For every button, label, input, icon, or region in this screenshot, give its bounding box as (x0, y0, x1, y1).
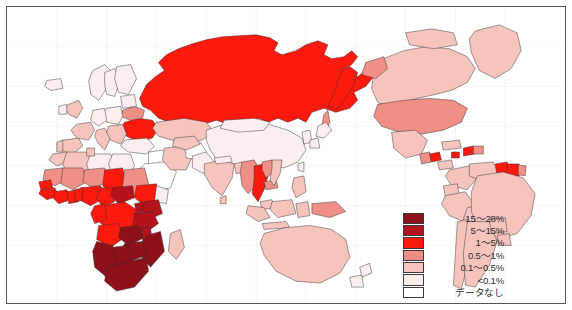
legend-label: <0.1% (424, 275, 505, 286)
country-japan[interactable] (316, 122, 332, 138)
legend-label: データなし (424, 287, 505, 298)
country-honduras[interactable] (429, 152, 441, 162)
legend-swatch (403, 262, 424, 273)
country-dominican-republic[interactable] (473, 146, 483, 154)
country-panama[interactable] (437, 160, 453, 170)
country-jamaica[interactable] (451, 152, 459, 158)
map-plate: 15〜28% 5〜15% 1〜5% 0.5〜1% 0.1〜0.5% <0.1% (6, 6, 566, 304)
legend-swatch (403, 250, 424, 261)
legend-row[interactable]: 0.5〜1% (403, 249, 505, 261)
legend-row[interactable]: 0.1〜0.5% (403, 262, 505, 274)
legend-swatch (403, 213, 424, 224)
legend-label: 1〜5% (424, 237, 505, 248)
country-baltics[interactable] (121, 94, 137, 108)
country-taiwan[interactable] (298, 162, 304, 172)
legend-label: 0.1〜0.5% (424, 262, 505, 273)
country-australia[interactable] (260, 226, 350, 284)
country-vietnam[interactable] (270, 160, 282, 186)
country-madagascar[interactable] (168, 229, 184, 259)
country-french-guiana[interactable] (518, 165, 526, 176)
legend-row[interactable]: 1〜5% (403, 237, 505, 249)
country-india[interactable] (204, 160, 234, 196)
legend-swatch (403, 237, 424, 248)
country-philippines[interactable] (292, 176, 306, 198)
country-gabon-congo[interactable] (91, 204, 107, 224)
country-balkans[interactable] (107, 124, 127, 144)
legend-row[interactable]: <0.1% (403, 274, 505, 286)
country-belarus[interactable] (121, 106, 145, 120)
country-benin-togo[interactable] (75, 188, 83, 202)
legend-label: 15〜28% (424, 213, 505, 224)
country-ireland[interactable] (59, 104, 67, 114)
map-legend: 15〜28% 5〜15% 1〜5% 0.5〜1% 0.1〜0.5% <0.1% (403, 212, 505, 299)
country-portugal[interactable] (57, 140, 63, 152)
country-germany[interactable] (91, 108, 107, 126)
legend-swatch (403, 225, 424, 236)
country-canada[interactable] (372, 47, 476, 107)
country-ukraine[interactable] (121, 118, 159, 142)
country-new-zealand-south[interactable] (350, 275, 364, 287)
legend-row[interactable]: データなし (403, 286, 505, 298)
country-indonesia-borneo[interactable] (270, 200, 296, 218)
country-japan-south[interactable] (310, 138, 320, 148)
legend-row[interactable]: 5〜15% (403, 224, 505, 236)
country-united-states[interactable] (374, 98, 468, 134)
legend-swatch (403, 274, 424, 285)
legend-label: 0.5〜1% (424, 250, 505, 261)
country-tunisia[interactable] (87, 148, 95, 156)
country-indonesia-sulawesi[interactable] (296, 202, 310, 218)
country-canada-arctic[interactable] (406, 29, 458, 49)
country-greenland[interactable] (469, 25, 521, 79)
legend-swatch (403, 287, 424, 298)
legend-row[interactable]: 15〜28% (403, 212, 505, 224)
country-united-kingdom[interactable] (65, 100, 83, 118)
country-finland[interactable] (115, 65, 137, 95)
country-iceland[interactable] (45, 79, 63, 91)
country-france[interactable] (71, 122, 95, 140)
world-map-figure: 15〜28% 5〜15% 1〜5% 0.5〜1% 0.1〜0.5% <0.1% (0, 0, 572, 310)
country-papua-new-guinea[interactable] (312, 202, 346, 218)
country-turkey[interactable] (121, 138, 155, 154)
country-mali[interactable] (61, 168, 87, 190)
legend-label: 5〜15% (424, 225, 505, 236)
country-sri-lanka[interactable] (220, 196, 226, 204)
country-cuba[interactable] (441, 140, 461, 150)
